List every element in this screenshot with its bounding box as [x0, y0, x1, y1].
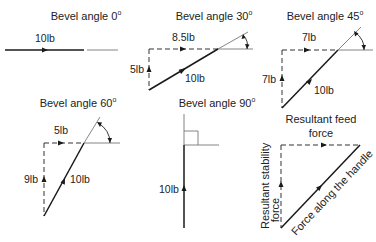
panel-title: Bevel angle 0o	[51, 9, 122, 22]
handle-force-label: 10lb	[35, 32, 55, 44]
handle-force-label: 10lb	[70, 173, 90, 185]
handle-force-title: Force along the handle	[289, 147, 375, 237]
panel-bevel-0: Bevel angle 0o 10lb	[5, 9, 121, 53]
legend-triangle: Resultant feed force Resultant stability…	[259, 113, 375, 237]
arrow-head-icon	[321, 143, 327, 148]
arrow-head-icon	[97, 122, 102, 127]
arrow-head-icon	[180, 47, 186, 52]
handle-force-label: 10lb	[314, 84, 334, 96]
panel-title: Bevel angle 30o	[176, 9, 253, 22]
arrow-head-icon	[279, 181, 284, 187]
feed-force-title-2: force	[309, 127, 333, 139]
stability-force-label: 7lb	[262, 73, 276, 85]
bevel-force-diagram: Bevel angle 0o 10lb Bevel angle 30o 8.5l…	[0, 0, 376, 242]
stability-force-label: 9lb	[24, 173, 38, 185]
panel-bevel-45: Bevel angle 45o 7lb 7lb 10lb	[262, 9, 373, 108]
arrow-head-icon	[304, 48, 310, 53]
handle-force-line	[282, 50, 338, 108]
arrow-head-icon	[108, 138, 113, 143]
stability-force-title-2: force	[269, 198, 281, 222]
handle-force-label: 10lb	[185, 72, 205, 84]
bevel-line	[338, 27, 361, 50]
right-angle-marker	[184, 131, 198, 145]
feed-force-title: Resultant feed	[286, 113, 357, 125]
arrow-head-icon	[58, 141, 64, 146]
arrow-head-icon	[42, 48, 48, 53]
arrow-head-icon	[280, 75, 285, 81]
feed-force-label: 7lb	[302, 31, 316, 43]
panel-bevel-30: Bevel angle 30o 8.5lb 5lb 10lb	[130, 9, 253, 90]
panel-title: Bevel angle 45o	[287, 9, 364, 22]
feed-force-label: 5lb	[54, 124, 68, 136]
handle-force-label: 10lb	[159, 183, 179, 195]
arrow-head-icon	[42, 176, 47, 182]
bevel-line	[84, 117, 100, 143]
arrow-head-icon	[245, 44, 250, 49]
panel-title: Bevel angle 90o	[179, 96, 256, 109]
panel-bevel-90: Bevel angle 90o 10lb	[159, 96, 255, 228]
feed-force-label: 8.5lb	[172, 31, 195, 43]
stability-force-label: 5lb	[130, 63, 144, 75]
arrow-head-icon	[147, 66, 152, 72]
arrow-head-icon	[362, 45, 367, 50]
panel-bevel-60: Bevel angle 60o 5lb 9lb 10lb	[24, 96, 120, 216]
bevel-line	[218, 32, 248, 49]
arrow-head-icon	[182, 185, 187, 191]
panel-title: Bevel angle 60o	[40, 96, 117, 109]
